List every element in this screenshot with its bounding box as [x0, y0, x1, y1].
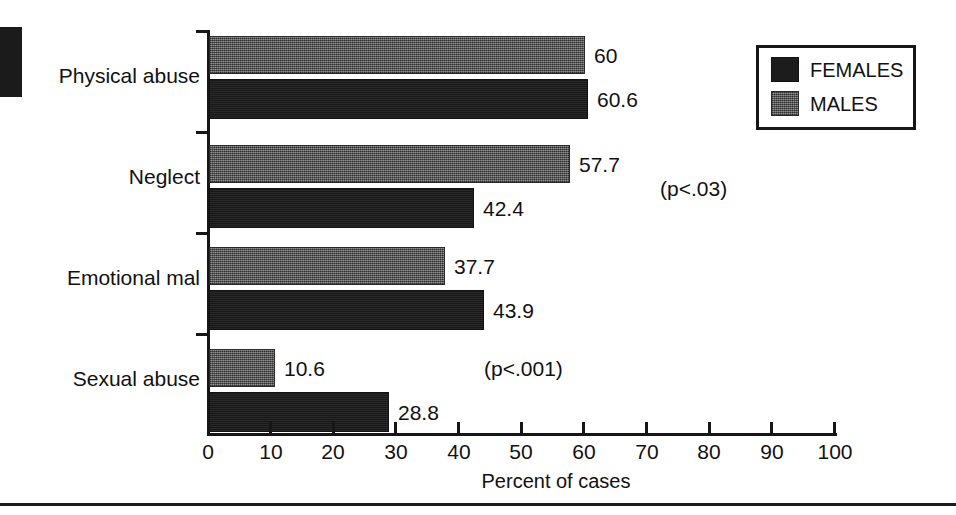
y-axis-tick	[196, 232, 209, 235]
annotation-p-value-sexual-abuse: (p<.001)	[484, 358, 563, 380]
chart-legend: FEMALES MALES	[756, 45, 916, 130]
x-axis-tick	[582, 422, 585, 434]
bar-value-females-physical-abuse: 60.6	[597, 89, 638, 111]
bar-females-emotional-mal	[209, 290, 484, 330]
bar-females-physical-abuse	[209, 79, 588, 119]
bar-males-neglect	[209, 145, 570, 183]
bar-males-physical-abuse	[209, 36, 585, 74]
annotation-p-value-neglect: (p<.03)	[660, 178, 727, 200]
legend-item-females: FEMALES	[771, 57, 903, 82]
x-axis-tick	[770, 422, 773, 434]
x-axis-tick-label: 20	[303, 440, 363, 464]
x-axis-tick-label: 10	[241, 440, 301, 464]
x-axis-tick-label: 40	[429, 440, 489, 464]
x-axis-tick	[520, 422, 523, 434]
x-axis-tick	[457, 422, 460, 434]
x-axis-tick	[645, 422, 648, 434]
x-axis-tick	[394, 422, 397, 434]
legend-label-females: FEMALES	[810, 59, 903, 81]
category-label-text: Emotional mal	[5, 266, 200, 290]
category-label-text: Physical abuse	[5, 64, 200, 88]
y-axis-tick	[196, 131, 209, 134]
x-axis-tick	[833, 422, 836, 434]
x-axis-tick	[207, 422, 210, 434]
legend-swatch-males-icon	[771, 91, 799, 116]
x-axis-tick	[708, 422, 711, 434]
legend-item-males: MALES	[771, 91, 878, 116]
legend-swatch-females-icon	[771, 57, 799, 82]
x-axis-tick-label: 50	[491, 440, 551, 464]
y-axis-tick	[196, 30, 209, 33]
x-axis-tick-label: 80	[679, 440, 739, 464]
bar-value-females-emotional-mal: 43.9	[493, 300, 534, 322]
bar-females-neglect	[209, 188, 474, 228]
x-axis-tick	[332, 422, 335, 434]
bar-value-females-neglect: 42.4	[483, 198, 524, 220]
bar-value-males-sexual-abuse: 10.6	[284, 358, 325, 380]
bar-females-sexual-abuse	[209, 392, 389, 432]
x-axis-tick-label: 60	[554, 440, 614, 464]
bar-males-emotional-mal	[209, 247, 445, 285]
bar-value-males-neglect: 57.7	[579, 154, 620, 176]
x-axis-title-text: Percent of cases	[482, 470, 631, 492]
bar-value-males-physical-abuse: 60	[594, 45, 617, 67]
x-axis-tick-label: 0	[178, 440, 238, 464]
x-axis-tick	[269, 422, 272, 434]
bar-males-sexual-abuse	[209, 349, 275, 387]
legend-label-males: MALES	[810, 93, 878, 115]
category-label-text: Sexual abuse	[5, 367, 200, 391]
x-axis-tick-label: 30	[366, 440, 426, 464]
y-axis-tick	[196, 333, 209, 336]
x-axis-tick-label: 70	[617, 440, 677, 464]
x-axis-tick-label: 90	[742, 440, 802, 464]
bar-value-males-emotional-mal: 37.7	[454, 256, 495, 278]
category-label-text: Neglect	[5, 165, 200, 189]
bar-value-females-sexual-abuse: 28.8	[398, 402, 439, 424]
figure-bottom-rule	[0, 503, 956, 506]
horizontal-bar-chart: Physical abuse Neglect Emotional mal Sex…	[0, 0, 956, 515]
x-axis-tick-label: 100	[805, 440, 865, 464]
x-axis-title: Percent of cases	[0, 470, 956, 493]
